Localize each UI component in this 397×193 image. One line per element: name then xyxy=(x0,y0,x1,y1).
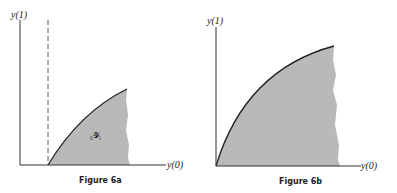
caption-6a: Figure 6a xyxy=(79,176,122,185)
figure-6a xyxy=(20,20,166,165)
caption-6b: Figure 6b xyxy=(279,177,322,186)
y-axis-label-6a: y(1) xyxy=(11,9,27,20)
x-axis-label-6a: y(0) xyxy=(167,159,183,170)
figures-canvas xyxy=(0,0,397,193)
x-axis-label-6b: y(0) xyxy=(361,160,377,171)
region-label-6a: ₀𝒴₁ xyxy=(90,131,102,141)
figure-6b xyxy=(216,27,361,166)
y-axis-label-6b: y(1) xyxy=(207,15,223,26)
shaded-region-6a xyxy=(48,89,130,165)
shaded-region-6b xyxy=(216,46,340,166)
